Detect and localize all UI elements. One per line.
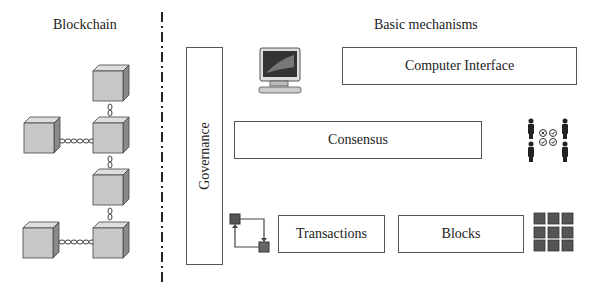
divider-line [160,12,166,284]
transactions-label: Transactions [296,226,367,242]
computer-interface-label: Computer Interface [405,58,514,74]
block-grid-icon [534,213,576,253]
computer-icon [258,47,306,97]
governance-label: Governance [197,122,213,190]
consensus-label: Consensus [328,132,388,148]
blocks-label: Blocks [442,226,481,242]
transactions-box: Transactions [278,215,385,253]
computer-interface-box: Computer Interface [342,47,577,85]
consensus-box: Consensus [234,121,482,159]
governance-box: Governance [186,47,223,265]
basic-mechanisms-title: Basic mechanisms [374,17,478,33]
blocks-box: Blocks [398,215,524,253]
blockchain-diagram [0,0,160,294]
transaction-flow-icon [229,213,273,255]
voting-people-icon [526,118,574,164]
